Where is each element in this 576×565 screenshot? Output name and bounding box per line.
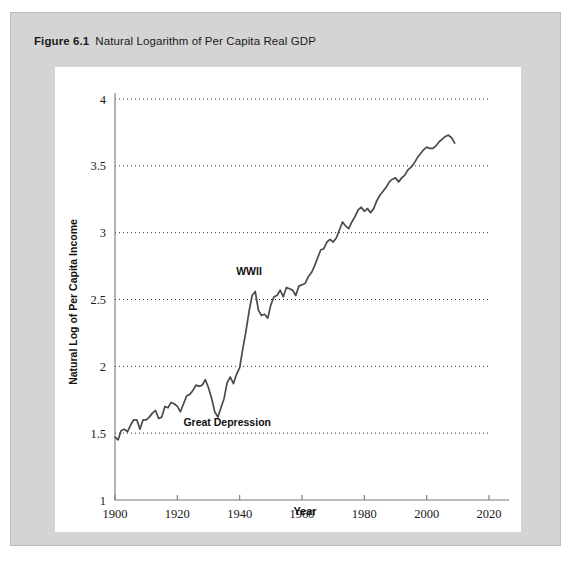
x-tick-label: 1940 — [227, 507, 252, 521]
chart-card: 11.522.533.54 19001920194019601980200020… — [55, 67, 521, 532]
data-series-group — [115, 135, 455, 440]
figure-caption-text: Natural Logarithm of Per Capita Real GDP — [95, 35, 316, 47]
y-tick-label: 2.5 — [90, 293, 106, 307]
figure-frame: Figure 6.1Natural Logarithm of Per Capit… — [10, 12, 561, 546]
y-tick-label: 1.5 — [90, 427, 106, 441]
x-tick-label: 2000 — [414, 507, 439, 521]
x-tick-label: 1900 — [103, 507, 128, 521]
figure-caption: Figure 6.1Natural Logarithm of Per Capit… — [34, 35, 316, 47]
x-tick-label: 2020 — [477, 507, 502, 521]
y-tick-label: 1 — [100, 494, 106, 508]
x-axis-title: Year — [293, 505, 317, 517]
x-tick-label: 1920 — [165, 507, 190, 521]
axis-lines — [115, 93, 509, 500]
y-tick-label: 4 — [100, 93, 107, 107]
y-tick-label: 2 — [100, 360, 106, 374]
x-axis-ticks — [115, 495, 489, 500]
chart-annotation: WWII — [236, 265, 262, 277]
chart-annotation: Great Depression — [183, 416, 271, 428]
y-axis-tick-labels: 11.522.533.54 — [90, 93, 106, 508]
chart-annotations: WWIIGreat Depression — [183, 265, 271, 428]
figure-number: Figure 6.1 — [34, 35, 89, 47]
axis-spines — [115, 93, 509, 500]
y-tick-label: 3 — [100, 226, 106, 240]
y-tick-label: 3.5 — [90, 159, 106, 173]
x-tick-label: 1980 — [352, 507, 377, 521]
series-line — [115, 135, 455, 440]
line-chart: 11.522.533.54 19001920194019601980200020… — [55, 67, 521, 532]
y-axis-title: Natural Log of Per Capita Income — [67, 219, 79, 385]
